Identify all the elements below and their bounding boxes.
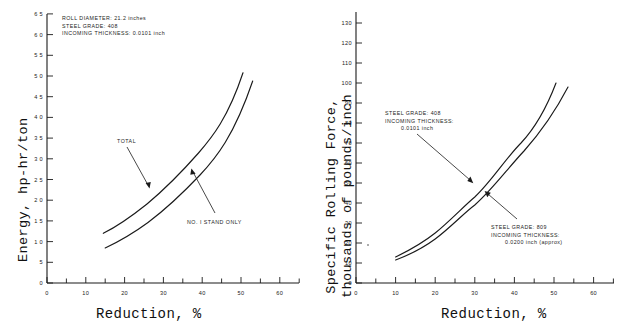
svg-text:120: 120: [342, 40, 352, 46]
svg-text:3 5: 3 5: [34, 135, 43, 141]
svg-text:5 5: 5 5: [34, 52, 43, 58]
svg-text:2 5: 2 5: [34, 177, 43, 183]
svg-text:20: 20: [121, 290, 128, 296]
svg-text:30: 30: [471, 290, 478, 296]
svg-text:60: 60: [345, 160, 352, 166]
svg-text:0: 0: [40, 280, 43, 286]
svg-text:40: 40: [511, 290, 518, 296]
svg-text:60: 60: [276, 290, 283, 296]
svg-text:40: 40: [345, 200, 352, 206]
svg-text:60: 60: [590, 290, 597, 296]
svg-text:1 0: 1 0: [34, 239, 43, 245]
svg-text:30: 30: [160, 290, 167, 296]
svg-text:80: 80: [345, 120, 352, 126]
svg-text:0: 0: [349, 280, 352, 286]
chart-panel-rolling-force: Specific Rolling Force, thousands of pou…: [316, 0, 631, 331]
svg-text:20: 20: [345, 240, 352, 246]
svg-text:10: 10: [82, 290, 89, 296]
svg-text:3 0: 3 0: [34, 156, 43, 162]
svg-text:5 0: 5 0: [34, 73, 43, 79]
svg-text:130: 130: [342, 20, 352, 26]
svg-text:50: 50: [345, 180, 352, 186]
svg-text:0: 0: [45, 290, 48, 296]
series-curve-stand-only: [105, 81, 253, 248]
svg-text:5: 5: [40, 259, 43, 265]
svg-text:10: 10: [345, 260, 352, 266]
energy-plot-svg: 0 5 1 0 1 5 2 0 2 5 3 0 3 5 4 0 4 5 5 0 …: [0, 0, 316, 331]
annotation-leader-stand-only: [190, 169, 215, 214]
svg-text:4 0: 4 0: [34, 114, 43, 120]
series-curve-grade-408: [396, 83, 556, 257]
svg-text:40: 40: [199, 290, 206, 296]
figure-root: Energy, hp-hr/ton Reduction, % ROLL DIAM…: [0, 0, 631, 331]
stray-mark: [367, 244, 368, 245]
svg-text:4 5: 4 5: [34, 94, 43, 100]
svg-text:110: 110: [342, 60, 352, 66]
y-axis-ticks-energy: [47, 14, 53, 283]
rolling-force-plot-svg: 0 10 20 30 40 50 60 70 80 90 100 110 120…: [316, 0, 631, 331]
y-axis-tick-labels-rolling-force: 0 10 20 30 40 50 60 70 80 90 100 110 120…: [342, 20, 352, 286]
annotation-leader-809: [485, 191, 517, 219]
svg-text:2 0: 2 0: [34, 197, 43, 203]
svg-text:70: 70: [345, 140, 352, 146]
svg-text:10: 10: [392, 290, 399, 296]
x-axis-ticks-energy: [47, 277, 299, 283]
svg-text:6 5: 6 5: [34, 11, 43, 17]
annotation-leader-408: [417, 134, 473, 183]
series-curve-total: [103, 73, 243, 234]
svg-text:1 5: 1 5: [34, 218, 43, 224]
svg-text:90: 90: [345, 100, 352, 106]
chart-panel-energy: Energy, hp-hr/ton Reduction, % ROLL DIAM…: [0, 0, 316, 331]
svg-text:50: 50: [238, 290, 245, 296]
x-axis-tick-labels-energy: 0 10 20 30 40 50 60: [45, 290, 283, 296]
svg-text:6 0: 6 0: [34, 32, 43, 38]
annotation-leader-total: [127, 147, 151, 189]
x-axis-tick-labels-rolling-force: 0 10 20 30 40 50 60: [354, 290, 597, 296]
svg-text:30: 30: [345, 220, 352, 226]
y-axis-ticks-rolling-force: [356, 23, 362, 283]
x-axis-ticks-rolling-force: [356, 277, 613, 283]
svg-text:20: 20: [432, 290, 439, 296]
svg-text:0: 0: [354, 290, 357, 296]
svg-text:100: 100: [342, 80, 352, 86]
svg-text:50: 50: [551, 290, 558, 296]
y-axis-tick-labels-energy: 0 5 1 0 1 5 2 0 2 5 3 0 3 5 4 0 4 5 5 0 …: [34, 11, 43, 286]
